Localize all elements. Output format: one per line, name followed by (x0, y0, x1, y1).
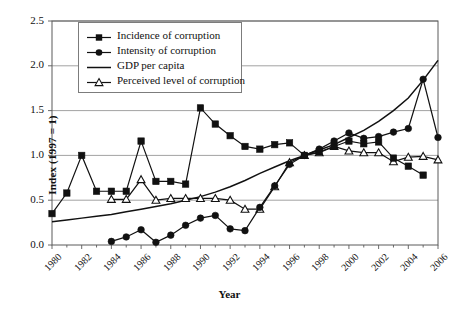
legend-key-line-filled-square-icon (86, 29, 112, 40)
legend-item: Perceived level of corruption (86, 72, 234, 87)
legend-key-line-filled-circle-icon (86, 44, 112, 55)
chart-figure: Index (1997 = 1) Year 0.00.51.01.52.02.5… (0, 0, 459, 309)
y-tick-label: 1.0 (10, 148, 44, 160)
y-axis-label: Index (1997 = 1) (46, 65, 58, 245)
legend-item: Incidence of corruption (86, 27, 234, 42)
x-axis-ticks (52, 245, 438, 249)
chart-legend: Incidence of corruptionIntensity of corr… (78, 22, 242, 93)
y-tick-label: 2.5 (10, 14, 44, 26)
legend-item-label: Intensity of corruption (117, 44, 216, 56)
series-perceived-level-of-corruption (107, 143, 441, 213)
legend-item-label: Perceived level of corruption (117, 74, 245, 86)
y-tick-label: 2.0 (10, 58, 44, 70)
legend-item: Intensity of corruption (86, 42, 234, 57)
x-axis-label: Year (0, 288, 459, 300)
legend-item-label: GDP per capita (117, 59, 184, 71)
y-tick-label: 1.5 (10, 103, 44, 115)
legend-key-line-open-triangle-icon (86, 74, 112, 85)
y-tick-label: 0.0 (10, 238, 44, 250)
y-tick-label: 0.5 (10, 193, 44, 205)
legend-item: GDP per capita (86, 57, 234, 72)
legend-key-line-plain-icon (86, 59, 112, 70)
legend-item-label: Incidence of corruption (117, 29, 220, 41)
